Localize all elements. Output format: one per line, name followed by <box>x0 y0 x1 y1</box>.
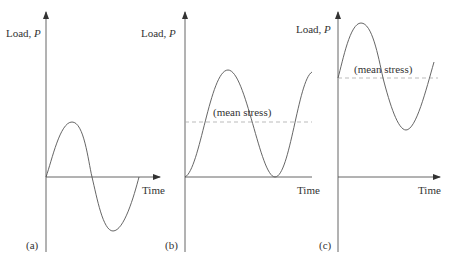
x-axis-label: Time <box>142 185 165 196</box>
panel-tag: (c) <box>319 240 331 251</box>
y-axis-label: Load, P <box>296 24 331 35</box>
mean-stress-annotation: (mean stress) <box>213 107 271 118</box>
y-axis-label: Load, P <box>141 28 176 39</box>
x-axis-label: Time <box>418 185 441 196</box>
panel-c <box>338 12 440 252</box>
load-curve <box>338 23 434 130</box>
load-curve <box>185 70 312 177</box>
x-axis-label: Time <box>297 185 320 196</box>
mean-stress-annotation: (mean stress) <box>354 64 412 75</box>
panel-b <box>185 12 312 252</box>
panel-a <box>46 12 160 252</box>
panel-tag: (a) <box>26 240 38 251</box>
y-axis-label: Load, P <box>6 28 41 39</box>
panel-tag: (b) <box>165 240 178 251</box>
load-cycle-diagram <box>0 0 449 258</box>
load-curve <box>46 122 139 231</box>
